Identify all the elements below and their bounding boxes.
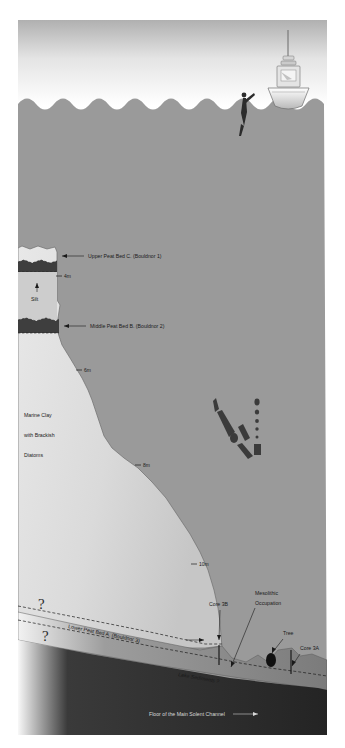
marine-clay-line-2: with Brackish <box>24 432 55 438</box>
query-marker-upper: ? <box>38 596 45 612</box>
depth-label-10m: 10m <box>199 561 209 567</box>
silt-label: Silt <box>31 296 39 302</box>
tree-label: Tree <box>283 630 294 636</box>
depth-label-6m: 6m <box>84 367 91 373</box>
mesolithic-line-2: Occupation <box>255 600 281 606</box>
middle-peat-label: Middle Peat Bed B. (Bouldnor 2) <box>90 323 165 329</box>
upper-peat-label: Upper Peat Bed C. (Bouldnor 1) <box>88 253 162 259</box>
query-marker-lower: ? <box>42 628 49 644</box>
tree-stump-marker <box>266 653 276 667</box>
depth-label-4m: 4m <box>64 273 71 279</box>
middle-peat-bed-b <box>18 318 59 333</box>
mesolithic-line-1: Mesolithic <box>255 590 278 596</box>
core-3a-label: Core 3A <box>300 645 320 651</box>
marine-clay-line-3: Diatoms <box>24 452 43 458</box>
cross-section-diagram: 4m 6m 8m 10m Upper Peat Bed C. (Bouldnor… <box>0 0 345 748</box>
depth-label-8m: 8m <box>143 462 150 468</box>
core-3b-label: Core 3B <box>209 601 229 607</box>
channel-floor-label: Floor of the Main Solent Channel <box>149 711 225 717</box>
figure-canvas: 4m 6m 8m 10m Upper Peat Bed C. (Bouldnor… <box>0 0 345 748</box>
marine-clay-line-1: Marine Clay <box>24 412 52 418</box>
